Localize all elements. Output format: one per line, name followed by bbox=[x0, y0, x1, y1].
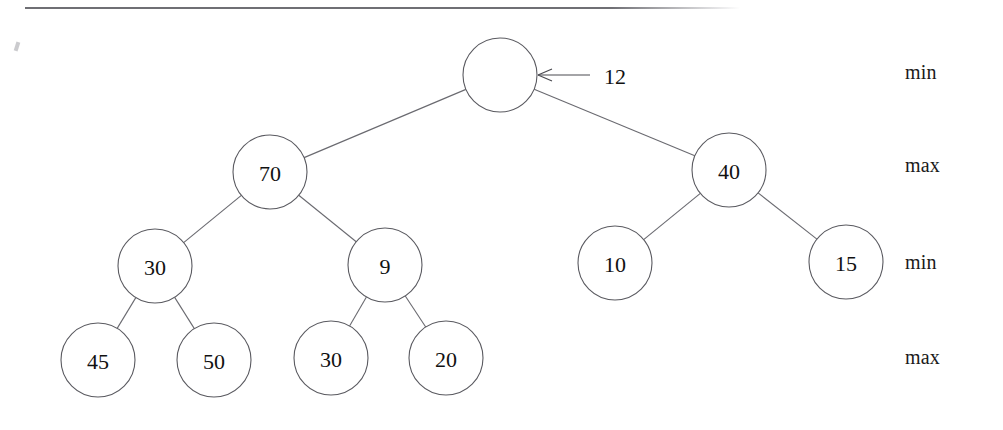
tree-node-n70[interactable]: 70 bbox=[233, 135, 307, 209]
tree-edge bbox=[350, 297, 367, 326]
node-value-label: 30 bbox=[320, 347, 342, 372]
tree-edge bbox=[117, 298, 136, 329]
pointer-value-label: 12 bbox=[604, 64, 626, 89]
node-value-label: 40 bbox=[718, 159, 740, 184]
tree-edge bbox=[175, 297, 195, 328]
tree-edge bbox=[644, 193, 701, 239]
tree-edge bbox=[534, 89, 695, 156]
node-value-label: 70 bbox=[259, 161, 281, 186]
tree-edges bbox=[117, 89, 817, 328]
node-value-label: 9 bbox=[380, 254, 391, 279]
min-max-heap-diagram: 7040309101545503020 12 bbox=[0, 0, 1003, 430]
tree-node-n50[interactable]: 50 bbox=[177, 323, 251, 397]
figure-canvas: 7040309101545503020 12 minmaxminmax bbox=[0, 0, 1003, 430]
tree-node-n9[interactable]: 9 bbox=[348, 228, 422, 302]
tree-edge bbox=[299, 195, 356, 241]
tree-node-n30b[interactable]: 30 bbox=[294, 321, 368, 395]
node-value-label: 30 bbox=[144, 255, 166, 280]
node-value-label: 10 bbox=[604, 252, 626, 277]
tree-node-n45[interactable]: 45 bbox=[61, 323, 135, 397]
tree-node-root[interactable] bbox=[463, 38, 537, 112]
tree-node-n30a[interactable]: 30 bbox=[118, 229, 192, 303]
node-value-label: 45 bbox=[87, 349, 109, 374]
level-label-min-2: min bbox=[905, 251, 937, 274]
tree-nodes: 7040309101545503020 bbox=[61, 38, 883, 397]
tree-edge bbox=[304, 89, 466, 157]
tree-node-n20[interactable]: 20 bbox=[409, 321, 483, 395]
tree-edge bbox=[758, 193, 817, 239]
tree-edge bbox=[184, 195, 242, 242]
tree-node-n15[interactable]: 15 bbox=[809, 225, 883, 299]
level-label-max-3: max bbox=[905, 346, 940, 369]
tree-node-n40[interactable]: 40 bbox=[692, 133, 766, 207]
tree-edge bbox=[405, 296, 425, 327]
node-value-label: 50 bbox=[203, 349, 225, 374]
tree-node-n10[interactable]: 10 bbox=[578, 226, 652, 300]
pointer-annotation: 12 bbox=[538, 64, 626, 89]
level-label-min-0: min bbox=[905, 61, 937, 84]
node-circle bbox=[463, 38, 537, 112]
node-value-label: 15 bbox=[835, 251, 857, 276]
level-label-max-1: max bbox=[905, 154, 940, 177]
node-value-label: 20 bbox=[435, 347, 457, 372]
